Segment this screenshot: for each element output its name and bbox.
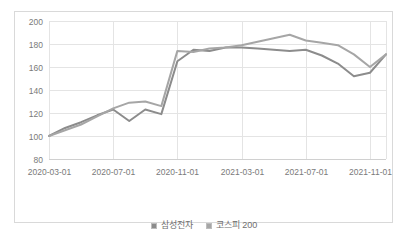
y-axis-tick-label: 100 bbox=[29, 132, 43, 142]
y-axis-tick-label: 80 bbox=[34, 155, 44, 165]
series-line-samsung bbox=[49, 47, 386, 136]
legend-swatch-icon bbox=[151, 223, 157, 229]
x-axis-tick-labels: 2020-03-012020-07-012020-11-012021-03-01… bbox=[28, 167, 392, 177]
y-axis-tick-label: 180 bbox=[29, 40, 43, 50]
legend-item-kospi200[interactable]: 코스피 200 bbox=[206, 221, 258, 230]
x-axis-tick-label: 2020-03-01 bbox=[28, 167, 72, 177]
y-axis-tick-label: 120 bbox=[29, 109, 43, 119]
x-axis-tick-label: 2020-07-01 bbox=[92, 167, 136, 177]
y-axis-tick-label: 200 bbox=[29, 17, 43, 27]
gridlines-group bbox=[49, 21, 387, 160]
y-axis-tick-labels: 80100120140160180200 bbox=[29, 17, 43, 165]
x-axis-tick-label: 2021-11-01 bbox=[349, 167, 392, 177]
series-lines-group bbox=[49, 35, 386, 136]
chart-container: 80100120140160180200 2020-03-012020-07-0… bbox=[14, 11, 393, 223]
x-axis-tick-label: 2020-11-01 bbox=[156, 167, 199, 177]
legend-item-samsung[interactable]: 삼성전자 bbox=[151, 221, 193, 230]
y-axis-tick-label: 140 bbox=[29, 86, 43, 96]
line-chart-svg: 80100120140160180200 2020-03-012020-07-0… bbox=[15, 12, 394, 224]
legend-label: 삼성전자 bbox=[161, 221, 193, 230]
legend-swatch-icon bbox=[206, 223, 212, 229]
x-axis-tick-label: 2021-07-01 bbox=[285, 167, 329, 177]
plot-area: 80100120140160180200 2020-03-012020-07-0… bbox=[15, 12, 394, 224]
y-axis-tick-label: 160 bbox=[29, 63, 43, 73]
legend-label: 코스피 200 bbox=[216, 221, 258, 230]
x-axis-tick-label: 2021-03-01 bbox=[221, 167, 265, 177]
chart-legend: 삼성전자 코스피 200 bbox=[0, 221, 408, 230]
